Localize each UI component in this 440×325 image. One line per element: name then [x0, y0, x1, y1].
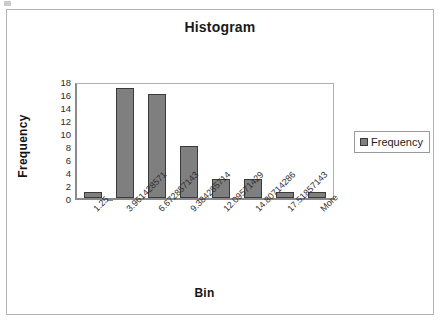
chart-title: Histogram	[7, 19, 433, 35]
y-tick-label: 14	[60, 104, 71, 114]
y-axis-title: Frequency	[16, 88, 32, 204]
x-tick-anchor: 1.25	[91, 202, 92, 203]
x-tick-anchor: 9.384285714	[188, 202, 189, 203]
plot-area	[75, 83, 334, 200]
y-axis-tick-labels: 024681012141618	[45, 76, 71, 207]
x-tick-label: 9.384285714	[189, 206, 197, 214]
scan-artifact	[4, 1, 11, 6]
y-tick-label: 10	[60, 130, 71, 140]
y-tick-label: 12	[60, 117, 71, 127]
x-axis-tick-labels: 1.253.9614285716.6728571439.38428571412.…	[75, 200, 334, 275]
legend-label: Frequency	[371, 136, 423, 148]
y-tick-label: 18	[60, 78, 71, 88]
x-tick-label: 17.51857143	[286, 206, 294, 214]
y-tick-label: 8	[66, 143, 71, 153]
bar	[116, 88, 134, 199]
x-tick-anchor: 14.80714286	[253, 202, 254, 203]
y-tick-label: 16	[60, 91, 71, 101]
x-tick-anchor: 12.09571429	[221, 202, 222, 203]
x-tick-label: 12.09571429	[221, 206, 229, 214]
x-tick-label: More	[318, 206, 326, 214]
x-tick-anchor: 3.961428571	[124, 202, 125, 203]
x-tick-anchor: More	[318, 202, 319, 203]
bar-slot	[77, 84, 109, 198]
bar-slot	[109, 84, 141, 198]
y-tick-label: 4	[66, 169, 71, 179]
x-axis-title: Bin	[75, 286, 334, 300]
y-tick-label: 6	[66, 156, 71, 166]
y-tick-label: 0	[66, 195, 71, 205]
x-tick-anchor: 17.51857143	[285, 202, 286, 203]
chart-legend: Frequency	[354, 131, 430, 153]
x-tick-label: 3.961428571	[124, 206, 132, 214]
y-tick-label: 2	[66, 182, 71, 192]
x-tick-label: 14.80714286	[253, 206, 261, 214]
chart-frame: Histogram Frequency 024681012141618 1.25…	[6, 9, 434, 315]
x-tick-label: 6.672857143	[156, 206, 164, 214]
bar-series	[77, 84, 333, 198]
x-tick-label: 1.25	[91, 206, 99, 214]
legend-swatch-icon	[360, 138, 368, 146]
x-tick-anchor: 6.672857143	[156, 202, 157, 203]
